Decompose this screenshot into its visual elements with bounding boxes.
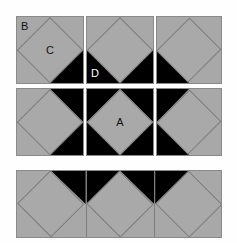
tile-r2c2: A bbox=[86, 88, 154, 156]
quilt-diagram: B C D A bbox=[0, 0, 237, 243]
tile-r3c1 bbox=[17, 171, 86, 237]
tile-r1c3 bbox=[156, 16, 222, 84]
label-b: B bbox=[21, 21, 28, 32]
tile-r1c1: B C bbox=[16, 16, 84, 84]
tile-r2c3 bbox=[156, 88, 222, 156]
tile-r2c1 bbox=[16, 88, 84, 156]
bottom-strip bbox=[16, 170, 222, 238]
tile-r3c2 bbox=[86, 171, 155, 237]
tile-r1c2: D bbox=[86, 16, 154, 84]
tile-r3c3 bbox=[154, 171, 222, 237]
